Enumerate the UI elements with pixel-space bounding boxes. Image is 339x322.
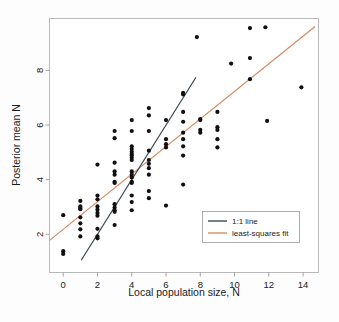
data-point — [181, 182, 185, 186]
x-tick-label: 2 — [95, 279, 100, 290]
scatter-plot: 02468101214 2468 Local population size, … — [0, 0, 339, 322]
data-point — [181, 120, 185, 124]
data-point — [113, 223, 117, 227]
y-tick-label: 6 — [34, 122, 45, 127]
data-point — [78, 234, 82, 238]
data-point — [147, 129, 151, 133]
x-axis-title: Local population size, N — [128, 286, 240, 298]
data-point — [61, 252, 65, 256]
data-point — [229, 61, 233, 65]
data-point — [147, 196, 151, 200]
data-point — [78, 207, 82, 211]
data-point — [215, 128, 219, 132]
x-axis-ticks — [63, 273, 303, 277]
data-point — [215, 145, 219, 149]
data-point — [147, 173, 151, 177]
y-tick-label: 2 — [34, 232, 45, 237]
data-point — [147, 158, 151, 162]
data-point — [130, 158, 134, 162]
data-point — [78, 215, 82, 219]
x-tick-label: 0 — [61, 279, 66, 290]
x-tick-label: 12 — [264, 279, 275, 290]
data-point — [130, 193, 134, 197]
y-axis-title: Posterior mean N — [10, 104, 22, 186]
data-point — [130, 181, 134, 185]
data-point — [248, 26, 252, 30]
data-point — [95, 193, 99, 197]
data-point — [164, 118, 168, 122]
data-point — [78, 227, 82, 231]
data-point — [198, 131, 202, 135]
data-point — [130, 200, 134, 204]
data-point — [248, 77, 252, 81]
data-point — [215, 137, 219, 141]
data-point — [164, 145, 168, 149]
data-point — [113, 210, 117, 214]
data-point — [181, 92, 185, 96]
y-axis-tick-labels: 2468 — [34, 68, 45, 237]
data-point — [113, 181, 117, 185]
data-point — [113, 173, 117, 177]
data-point — [113, 129, 117, 133]
data-point — [78, 221, 82, 225]
data-point — [195, 35, 199, 39]
data-point — [95, 227, 99, 231]
data-point — [147, 106, 151, 110]
data-point — [95, 163, 99, 167]
data-point — [95, 236, 99, 240]
y-tick-label: 8 — [34, 68, 45, 73]
data-point — [164, 203, 168, 207]
data-point — [265, 119, 269, 123]
data-point — [130, 208, 134, 212]
data-point — [181, 110, 185, 114]
data-point — [248, 56, 252, 60]
data-point — [78, 199, 82, 203]
data-point — [164, 137, 168, 141]
data-point — [181, 131, 185, 135]
x-tick-label: 14 — [298, 279, 309, 290]
data-point — [198, 118, 202, 122]
data-point — [147, 149, 151, 153]
data-point — [181, 137, 185, 141]
data-point — [130, 118, 134, 122]
data-point — [95, 214, 99, 218]
data-point — [181, 144, 185, 148]
data-point — [113, 136, 117, 140]
data-point — [147, 189, 151, 193]
figure-container: 02468101214 2468 Local population size, … — [0, 0, 339, 322]
legend-label-fit: least-squares fit — [232, 229, 289, 238]
data-point — [147, 162, 151, 166]
data-point — [95, 197, 99, 201]
y-axis-ticks — [46, 70, 50, 234]
data-point — [130, 175, 134, 179]
data-point — [147, 113, 151, 117]
data-point — [130, 129, 134, 133]
data-point — [263, 25, 267, 29]
data-point — [113, 161, 117, 165]
chart-legend: 1:1 line least-squares fit — [203, 212, 300, 243]
legend-label-one-to-one: 1:1 line — [232, 217, 258, 226]
y-tick-label: 4 — [34, 177, 45, 182]
data-point — [147, 166, 151, 170]
data-point — [215, 110, 219, 114]
data-point — [61, 213, 65, 217]
data-point — [299, 85, 303, 89]
data-point — [181, 154, 185, 158]
